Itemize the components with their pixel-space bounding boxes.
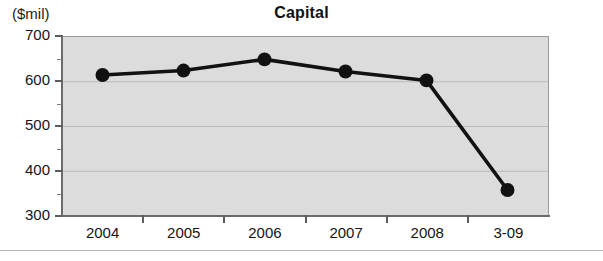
- page-bottom-rule: [0, 250, 603, 251]
- x-tick: [223, 215, 225, 223]
- capital-series: [62, 37, 548, 216]
- y-tick-minor: [57, 194, 62, 195]
- y-tick-label: 500: [0, 116, 50, 133]
- x-tick: [386, 215, 388, 223]
- y-tick-major: [55, 80, 62, 82]
- y-tick-label: 400: [0, 161, 50, 178]
- y-tick-minor: [57, 104, 62, 105]
- y-tick-minor: [57, 59, 62, 60]
- x-tick: [467, 215, 469, 223]
- x-tick-label: 2006: [220, 224, 310, 241]
- plot-area: [62, 36, 549, 216]
- y-tick-minor: [57, 149, 62, 150]
- y-tick-major: [55, 170, 62, 172]
- x-tick-label: 2007: [301, 224, 391, 241]
- y-tick-label: 600: [0, 71, 50, 88]
- y-tick-label: 700: [0, 26, 50, 43]
- capital-line-chart: ($mil) Capital 300400500600700 200420052…: [0, 0, 603, 261]
- x-tick: [142, 215, 144, 223]
- x-tick-label: 2005: [139, 224, 229, 241]
- y-tick-major: [55, 35, 62, 37]
- x-tick: [305, 215, 307, 223]
- y-tick-major: [55, 215, 62, 217]
- x-tick-label: 3-09: [463, 224, 553, 241]
- y-tick-major: [55, 125, 62, 127]
- y-tick-label: 300: [0, 206, 50, 223]
- x-tick-label: 2008: [382, 224, 472, 241]
- x-tick-label: 2004: [58, 224, 148, 241]
- chart-title: Capital: [0, 4, 603, 22]
